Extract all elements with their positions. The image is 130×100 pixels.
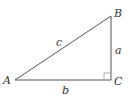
vertex-label-a: A	[2, 74, 11, 87]
triangle-shape	[15, 16, 111, 80]
side-label-c: c	[56, 36, 62, 49]
vertex-label-b: B	[113, 7, 122, 20]
right-triangle-diagram: A B C a b c	[0, 0, 130, 100]
side-label-a: a	[115, 44, 122, 57]
side-label-b: b	[62, 84, 69, 97]
vertex-label-c: C	[114, 75, 123, 88]
right-angle-marker	[104, 73, 111, 80]
